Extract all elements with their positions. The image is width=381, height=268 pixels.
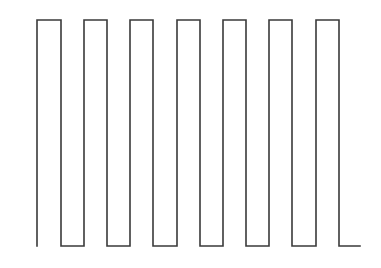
square-wave-trace: [37, 20, 360, 246]
square-wave-diagram: [0, 0, 381, 268]
